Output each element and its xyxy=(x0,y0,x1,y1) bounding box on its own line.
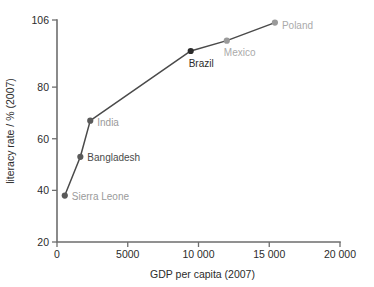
data-point-label: Sierra Leone xyxy=(72,191,130,202)
y-tick-label: 80 xyxy=(37,81,49,93)
y-tick-label: 106 xyxy=(31,14,49,26)
y-axis-title: literacy rate / % (2007) xyxy=(4,78,16,184)
x-tick-label: 10 000 xyxy=(182,248,214,260)
data-point-label: Bangladesh xyxy=(87,152,140,163)
x-tick-label: 0 xyxy=(54,248,60,260)
y-tick-label: 20 xyxy=(37,236,49,248)
x-tick-label: 20 000 xyxy=(324,248,356,260)
data-point-label: India xyxy=(97,117,119,128)
data-point-label: Brazil xyxy=(189,58,214,69)
data-point-label: Poland xyxy=(282,20,313,31)
data-point-label: Mexico xyxy=(224,47,256,58)
plot-area: 204060801060500010 00015 00020 000GDP pe… xyxy=(0,0,374,287)
literacy-vs-gdp-chart: 204060801060500010 00015 00020 000GDP pe… xyxy=(0,0,374,287)
y-tick-label: 60 xyxy=(37,133,49,145)
y-tick-label: 40 xyxy=(37,184,49,196)
x-tick-label: 5000 xyxy=(116,248,140,260)
axis-lines xyxy=(57,20,340,242)
x-tick-label: 15 000 xyxy=(253,248,285,260)
x-axis-title: GDP per capita (2007) xyxy=(150,268,255,280)
